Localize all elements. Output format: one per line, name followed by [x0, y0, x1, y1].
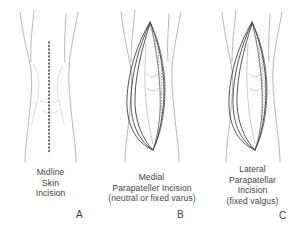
caption-line: Parapateller Incision: [87, 183, 217, 194]
caption-line: Skin: [0, 178, 101, 189]
panel-c: Lateral Parapatellar Incision (fixed val…: [202, 0, 303, 237]
caption-line: Incision: [202, 185, 303, 196]
caption-line: Incision: [0, 188, 101, 199]
caption-line: Midline: [0, 167, 101, 178]
knee-incision-figure: Midline Skin Incision A: [0, 0, 304, 237]
leg-outline-a: [20, 10, 78, 162]
caption-line: Parapatellar: [202, 175, 303, 186]
caption-line: Medial: [101, 172, 202, 183]
exposed-tissue-shading-c: [252, 22, 267, 150]
panel-a-illustration: [0, 4, 101, 164]
panel-c-caption: Lateral Parapatellar Incision (fixed val…: [202, 164, 303, 206]
caption-line: (fixed valgus): [202, 196, 303, 207]
panel-a: Midline Skin Incision A: [0, 0, 101, 237]
panel-letter-b: B: [177, 210, 184, 220]
knee-contour-shading-a: [32, 64, 64, 124]
caption-line: Lateral: [202, 164, 303, 175]
panel-b-illustration: [101, 4, 202, 164]
panel-letter-c: C: [279, 211, 286, 221]
panel-c-illustration: [202, 4, 303, 164]
leg-outline-b: [121, 10, 181, 162]
leg-outline-c: [222, 10, 282, 162]
panel-b-caption: Medial Parapateller Incision (neutral or…: [101, 172, 202, 204]
exposed-tissue-shading-b: [150, 22, 165, 150]
caption-line: (neutral or fixed varus): [87, 193, 217, 204]
panel-a-caption: Midline Skin Incision: [0, 167, 101, 199]
panel-letter-a: A: [76, 210, 83, 220]
panel-b: Medial Parapateller Incision (neutral or…: [101, 0, 202, 237]
